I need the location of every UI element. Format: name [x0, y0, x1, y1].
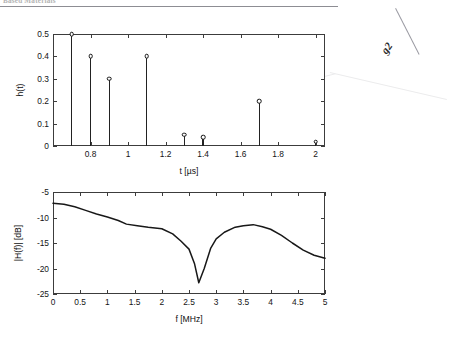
x-tick	[135, 290, 136, 294]
impulse-response-ylabel: h(t)	[15, 84, 25, 97]
x-tick-label: 2	[159, 297, 164, 307]
y-tick-right	[321, 294, 325, 295]
x-tick-label: 0	[51, 297, 56, 307]
y-tick-label: -20	[21, 264, 49, 274]
x-tick	[166, 142, 167, 146]
stem-marker	[88, 54, 93, 59]
x-tick-label: 1.5	[129, 297, 141, 307]
stem-line	[71, 34, 72, 146]
x-tick-top	[166, 34, 167, 38]
x-tick-label: 0.5	[74, 297, 86, 307]
y-tick-label: 0.1	[21, 119, 49, 129]
stem-marker	[69, 32, 74, 37]
y-tick-right	[321, 269, 325, 270]
y-tick-label: 0.4	[21, 51, 49, 61]
frequency-response-curve	[0, 180, 468, 338]
x-tick-top	[278, 34, 279, 38]
x-tick-top	[162, 192, 163, 196]
y-tick-right	[321, 56, 325, 57]
x-tick	[325, 290, 326, 294]
y-tick-label: 0.5	[21, 29, 49, 39]
stem-marker	[257, 99, 262, 104]
y-tick	[53, 124, 57, 125]
x-tick-label: 1.8	[272, 149, 284, 159]
x-tick-top	[135, 192, 136, 196]
y-tick	[53, 79, 57, 80]
y-tick-label: 0.3	[21, 74, 49, 84]
x-tick-label: 2.5	[183, 297, 195, 307]
stem-marker	[107, 77, 112, 82]
y-tick-right	[321, 218, 325, 219]
x-tick-top	[325, 192, 326, 196]
x-tick-top	[91, 34, 92, 38]
x-tick	[216, 290, 217, 294]
y-tick	[53, 192, 57, 193]
x-tick	[128, 142, 129, 146]
y-tick-label: 0.2	[21, 96, 49, 106]
frequency-response-xlabel: f [MHz]	[175, 314, 202, 324]
stem-marker	[182, 133, 187, 138]
stem-line	[109, 79, 110, 146]
y-tick-right	[321, 192, 325, 193]
y-tick-label: -15	[21, 238, 49, 248]
y-tick	[53, 34, 57, 35]
y-tick-label: -10	[21, 213, 49, 223]
x-tick-label: 1.6	[235, 149, 247, 159]
y-tick-right	[321, 243, 325, 244]
x-tick-label: 1	[126, 149, 131, 159]
stem-line	[90, 56, 91, 146]
impulse-response-xlabel: t [µs]	[180, 166, 199, 176]
x-tick-label: 2	[313, 149, 318, 159]
x-tick-top	[203, 34, 204, 38]
x-tick-top	[107, 192, 108, 196]
magnitude-response-path	[53, 203, 325, 283]
x-tick-label: 1	[105, 297, 110, 307]
x-tick-top	[216, 192, 217, 196]
x-tick	[243, 290, 244, 294]
x-tick-label: 4.5	[292, 297, 304, 307]
x-tick-top	[189, 192, 190, 196]
y-tick-label: 0	[21, 141, 49, 151]
x-tick-top	[128, 34, 129, 38]
y-tick-label: -25	[21, 289, 49, 299]
y-tick-right	[321, 34, 325, 35]
x-tick	[298, 290, 299, 294]
x-tick-top	[80, 192, 81, 196]
x-tick	[278, 142, 279, 146]
x-tick	[189, 290, 190, 294]
y-tick	[53, 294, 57, 295]
x-tick-top	[271, 192, 272, 196]
y-tick	[53, 56, 57, 57]
y-tick	[53, 269, 57, 270]
figure-page: Based Materials g2 0.811.21.41.61.8200.1…	[0, 0, 468, 338]
y-tick-right	[321, 124, 325, 125]
stem-marker	[201, 135, 206, 140]
x-tick-top	[316, 34, 317, 38]
x-tick-top	[298, 192, 299, 196]
stem-marker	[144, 54, 149, 59]
impulse-response-panel: 0.811.21.41.61.8200.10.20.30.40.5 t [µs]…	[0, 0, 468, 180]
stem-marker	[313, 139, 318, 144]
y-tick-right	[321, 79, 325, 80]
x-tick-label: 1.4	[197, 149, 209, 159]
x-tick-top	[243, 192, 244, 196]
stem-line	[146, 56, 147, 146]
x-tick-top	[241, 34, 242, 38]
stem-line	[259, 101, 260, 146]
x-tick-label: 3.5	[238, 297, 250, 307]
frequency-response-ylabel: |H(f)| [dB]	[13, 225, 23, 261]
x-tick	[241, 142, 242, 146]
y-tick	[53, 218, 57, 219]
y-tick	[53, 101, 57, 102]
y-tick-right	[321, 101, 325, 102]
x-tick	[271, 290, 272, 294]
y-tick-right	[321, 146, 325, 147]
y-tick	[53, 146, 57, 147]
x-tick-label: 3	[214, 297, 219, 307]
x-tick-label: 5	[323, 297, 328, 307]
x-tick-label: 0.8	[85, 149, 97, 159]
x-tick-label: 1.2	[160, 149, 172, 159]
x-tick	[107, 290, 108, 294]
x-tick	[162, 290, 163, 294]
y-tick	[53, 243, 57, 244]
